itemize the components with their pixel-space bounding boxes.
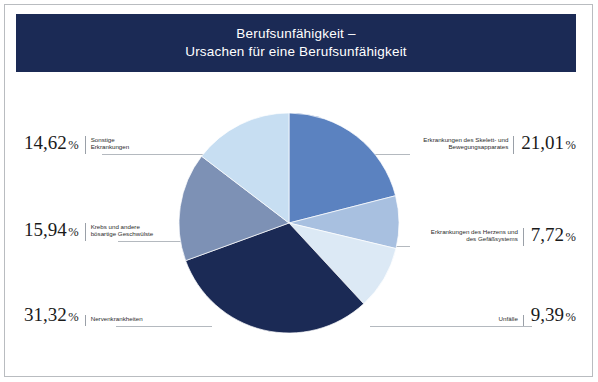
label-box-krebs: Krebs und andere bösartige Geschwülste <box>85 223 173 241</box>
label-sonstige-line1: Sonstige <box>91 136 115 144</box>
chart-stage: 14,62% Sonstige Erkrankungen 15,94% Kreb… <box>0 80 598 380</box>
page-title-line2: Ursachen für eine Berufsunfähigkeit <box>185 43 407 61</box>
callout-skelett: Erkrankungen des Skelett- und Bewegungsa… <box>386 120 576 154</box>
label-box-herz-gefaess: Erkrankungen des Herzens und des Gefäßsy… <box>412 228 524 246</box>
callout-nervenkrankheiten: 31,32% Nervenkrankheiten <box>24 292 171 326</box>
percent-symbol: % <box>566 230 576 244</box>
percent-symbol: % <box>68 310 78 324</box>
label-krebs-line2: bösartige Geschwülste <box>91 230 154 238</box>
label-unfaelle-line1: Unfälle <box>499 315 518 323</box>
value-herz-gefaess: 7,72% <box>531 225 576 246</box>
chart-page: Berufsunfähigkeit – Ursachen für eine Be… <box>0 0 598 382</box>
percent-symbol: % <box>68 138 78 152</box>
value-krebs: 15,94% <box>24 220 79 241</box>
label-box-unfaelle: Unfälle <box>484 315 524 326</box>
label-skelett-line2: Bewegungsapparates <box>448 143 508 151</box>
percent-symbol: % <box>566 138 576 152</box>
callout-unfaelle: Unfälle 9,39% <box>484 292 576 326</box>
pie-svg <box>178 112 400 334</box>
percent-symbol: % <box>68 225 78 239</box>
page-title-line1: Berufsunfähigkeit – <box>236 25 355 43</box>
value-nervenkrankheiten: 31,32% <box>24 305 79 326</box>
label-box-skelett: Erkrankungen des Skelett- und Bewegungsa… <box>386 136 514 154</box>
pie-chart <box>178 112 400 334</box>
pie-slice-group <box>179 113 399 333</box>
value-sonstige-erkrankungen: 14,62% <box>24 133 79 154</box>
title-banner: Berufsunfähigkeit – Ursachen für eine Be… <box>16 14 576 72</box>
label-box-sonstige-erkrankungen: Sonstige Erkrankungen <box>85 136 157 154</box>
value-skelett: 21,01% <box>521 133 576 154</box>
label-herz-line2: des Gefäßsystems <box>466 235 518 243</box>
label-skelett-line1: Erkrankungen des Skelett- und <box>423 136 508 144</box>
percent-symbol: % <box>566 310 576 324</box>
label-krebs-line1: Krebs und andere <box>91 223 140 231</box>
label-box-nervenkrankheiten: Nervenkrankheiten <box>85 315 171 326</box>
label-sonstige-line2: Erkrankungen <box>91 143 130 151</box>
callout-krebs: 15,94% Krebs und andere bösartige Geschw… <box>24 207 173 241</box>
label-herz-line1: Erkrankungen des Herzens und <box>431 228 518 236</box>
value-unfaelle: 9,39% <box>531 305 576 326</box>
callout-sonstige-erkrankungen: 14,62% Sonstige Erkrankungen <box>24 120 157 154</box>
label-nerven-line1: Nervenkrankheiten <box>91 315 143 323</box>
callout-herz-gefaess: Erkrankungen des Herzens und des Gefäßsy… <box>412 212 576 246</box>
